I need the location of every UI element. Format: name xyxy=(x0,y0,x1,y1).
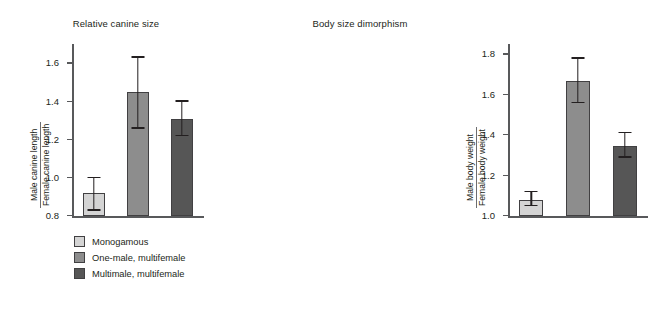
y-axis-tick-label-right: 1.6 xyxy=(482,88,495,99)
legend-item: Multimale, multifemale xyxy=(74,268,186,279)
y-axis-tick-right: 1.6 xyxy=(503,94,508,95)
y-axis-tick-right: 1.8 xyxy=(503,53,508,54)
error-bar-cap-lower xyxy=(132,127,145,128)
error-bar xyxy=(181,102,182,136)
y-axis-tick-left: 1.2 xyxy=(67,139,72,140)
y-axis-tick-right: 1.0 xyxy=(503,215,508,216)
error-bar-cap-lower xyxy=(618,156,631,157)
chart-title-right: Body size dimorphism xyxy=(270,18,450,29)
error-bar-cap-upper xyxy=(572,57,585,58)
legend-swatch-icon xyxy=(74,268,85,279)
legend-item: One-male, multifemale xyxy=(74,252,186,263)
error-bar-cap-upper xyxy=(618,132,631,133)
error-bar xyxy=(137,58,138,129)
error-bar-cap-lower xyxy=(88,209,101,210)
y-axis-tick-label-right: 1.2 xyxy=(482,169,495,180)
error-bar-cap-lower xyxy=(176,135,189,136)
y-axis-tick-left: 0.8 xyxy=(67,215,72,216)
chart-title-left: Relative canine size xyxy=(26,18,206,29)
x-axis-line-right xyxy=(508,216,648,218)
error-bar-cap-upper xyxy=(176,100,189,101)
y-axis-tick-label-right: 1.0 xyxy=(482,210,495,221)
y-axis-tick-label-left: 1.2 xyxy=(46,133,59,144)
x-axis-line-left xyxy=(72,216,204,218)
y-axis-tick-label-left: 1.4 xyxy=(46,95,59,106)
error-bar xyxy=(624,133,625,157)
chart-panel-body-size-dimorphism: Body size dimorphism Male body weight Fe… xyxy=(228,0,440,230)
legend: MonogamousOne-male, multifemaleMultimale… xyxy=(74,236,186,279)
legend-swatch-icon xyxy=(74,252,85,263)
legend-swatch-icon xyxy=(74,236,85,247)
y-axis-tick-left: 1.4 xyxy=(67,101,72,102)
plot-area-right: 1.01.21.41.61.8 xyxy=(508,44,648,218)
y-axis-tick-label-right: 1.4 xyxy=(482,129,495,140)
error-bar-cap-lower xyxy=(525,205,538,206)
legend-item: Monogamous xyxy=(74,236,186,247)
chart-panel-relative-canine-size: Relative canine size Male canine length … xyxy=(0,0,228,230)
y-axis-tick-left: 1.0 xyxy=(67,177,72,178)
plot-area-left: 0.81.01.21.41.6 xyxy=(72,44,204,218)
y-axis-tick-right: 1.4 xyxy=(503,134,508,135)
legend-item-label: Multimale, multifemale xyxy=(92,269,184,279)
legend-item-label: Monogamous xyxy=(92,237,148,247)
y-axis-line-right xyxy=(508,44,510,218)
fraction-numerator-left: Male canine length xyxy=(30,127,40,203)
fraction-numerator-right: Male body weight xyxy=(466,132,476,203)
y-axis-tick-label-right: 1.8 xyxy=(482,48,495,59)
error-bar xyxy=(93,178,94,210)
error-bar xyxy=(577,59,578,104)
y-axis-tick-label-left: 1.6 xyxy=(46,57,59,68)
y-axis-tick-right: 1.2 xyxy=(503,175,508,176)
error-bar-cap-lower xyxy=(572,102,585,103)
y-axis-line-left xyxy=(72,44,74,218)
error-bar-cap-upper xyxy=(132,56,145,57)
error-bar-cap-upper xyxy=(88,177,101,178)
error-bar-cap-upper xyxy=(525,191,538,192)
y-axis-tick-label-left: 0.8 xyxy=(46,210,59,221)
y-axis-tick-left: 1.6 xyxy=(67,62,72,63)
y-axis-tick-label-left: 1.0 xyxy=(46,172,59,183)
legend-item-label: One-male, multifemale xyxy=(92,253,186,263)
